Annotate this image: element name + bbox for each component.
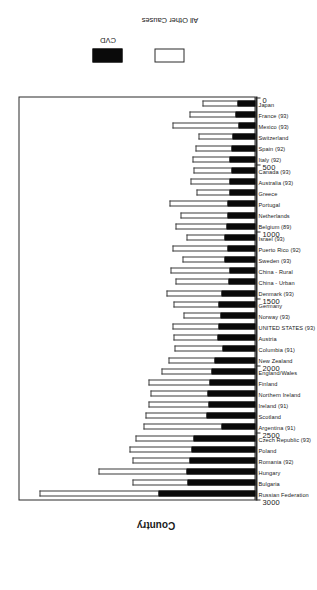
stacked-bar[interactable] [148,379,255,385]
category-axis-label: Russian Federation [258,491,308,497]
bar-slot [19,488,255,499]
stacked-bar[interactable] [132,457,255,463]
bar-slot [19,242,255,253]
stacked-bar[interactable] [180,212,255,218]
category-axis-label: Scotland [258,413,281,419]
stacked-bar[interactable] [132,479,255,485]
bar-slot [19,187,255,198]
stacked-bar[interactable] [169,200,255,206]
bar-segment-all-other-causes [172,323,218,329]
bar-segment-all-other-causes [148,379,209,385]
bar-segment-all-other-causes [193,167,231,173]
stacked-bar[interactable] [193,167,255,173]
stacked-bar[interactable] [186,234,255,240]
bar-slot [19,298,255,309]
bar-segment-all-other-causes [132,479,187,485]
bar-segment-cvd [221,290,255,296]
stacked-bar[interactable] [172,245,255,251]
stacked-bar[interactable] [172,122,255,128]
bar-segment-all-other-causes [189,111,235,117]
bar-slot [19,265,255,276]
stacked-bar[interactable] [170,267,255,273]
stacked-bar[interactable] [192,156,255,162]
stacked-bar[interactable] [145,412,255,418]
category-axis-label: Denmark (93) [258,290,293,296]
stacked-bar[interactable] [168,357,255,363]
stacked-bar[interactable] [129,446,255,452]
stacked-bar[interactable] [196,189,255,195]
bar-segment-cvd [214,357,255,363]
stacked-bar[interactable] [143,423,255,429]
bar-segment-all-other-causes [148,401,208,407]
bar-segment-all-other-causes [98,468,186,474]
category-axis-label: Greece [258,190,277,196]
category-axis-label: Columbia (91) [258,346,294,352]
bar-segment-all-other-causes [180,212,227,218]
bar-segment-all-other-causes [174,345,222,351]
category-axis-label: Spain (92) [258,145,285,151]
stacked-bar[interactable] [202,100,255,106]
rotated-figure-stage: 050010001500200025003000 Russian Federat… [0,0,317,590]
bar-segment-all-other-causes [195,145,231,151]
bar-segment-cvd [224,256,255,262]
bar-segment-cvd [235,111,255,117]
stacked-bar[interactable] [182,256,255,262]
category-axis-label: Finland [258,380,277,386]
stacked-bar[interactable] [175,278,255,284]
category-axis-label: Netherlands [258,212,289,218]
bar-segment-cvd [189,457,255,463]
bar-segment-cvd [229,189,255,195]
bar-slot [19,443,255,454]
bar-slot [19,175,255,186]
bar-slot [19,109,255,120]
bar-segment-all-other-causes [168,357,214,363]
stacked-bar[interactable] [173,301,255,307]
value-axis-tick [255,365,260,366]
category-axis-title: Country [136,519,174,530]
bar-segment-cvd [207,390,255,396]
bar-segment-all-other-causes [173,334,217,340]
bar-segment-all-other-causes [150,390,207,396]
bar-slot [19,231,255,242]
value-axis-tick [255,97,260,98]
stacked-bar[interactable] [189,111,255,117]
stacked-bar[interactable] [148,401,255,407]
bar-slot [19,153,255,164]
bar-segment-all-other-causes [132,457,189,463]
category-axis-label: Canada (93) [258,168,290,174]
stacked-bar[interactable] [190,178,255,184]
stacked-bar[interactable] [175,223,255,229]
stacked-bar[interactable] [98,468,255,474]
bar-segment-cvd [227,212,255,218]
bar-segment-all-other-causes [170,267,229,273]
stacked-bar[interactable] [198,133,255,139]
category-axis-label: Poland [258,447,276,453]
category-axis-label: Norway (93) [258,313,290,319]
bar-slot [19,198,255,209]
bar-segment-cvd [187,479,255,485]
stacked-bar[interactable] [39,490,255,496]
bar-slot [19,164,255,175]
stacked-bar[interactable] [161,368,255,374]
category-axis-label: Sweden (93) [258,257,291,263]
stacked-bar[interactable] [195,145,255,151]
stacked-bar[interactable] [172,323,255,329]
stacked-bar[interactable] [166,290,255,296]
bar-segment-cvd [220,312,255,318]
category-axis-label: Bulgaria [258,480,279,486]
bar-segment-all-other-causes [129,446,190,452]
stacked-bar[interactable] [173,334,255,340]
stacked-bar[interactable] [183,312,255,318]
stacked-bar[interactable] [174,345,255,351]
category-axis-label: Japan [258,101,274,107]
bar-segment-cvd [229,178,255,184]
stacked-bar[interactable] [150,390,255,396]
legend-item-all-other-causes: All Other Causes [154,0,184,62]
category-axis-label: Hungary [258,469,280,475]
bar-segment-cvd [229,156,255,162]
bar-segment-cvd [226,223,255,229]
stacked-bar[interactable] [135,435,255,441]
bar-segment-cvd [191,446,256,452]
bar-segment-all-other-causes [39,490,159,496]
bar-segment-cvd [228,278,255,284]
